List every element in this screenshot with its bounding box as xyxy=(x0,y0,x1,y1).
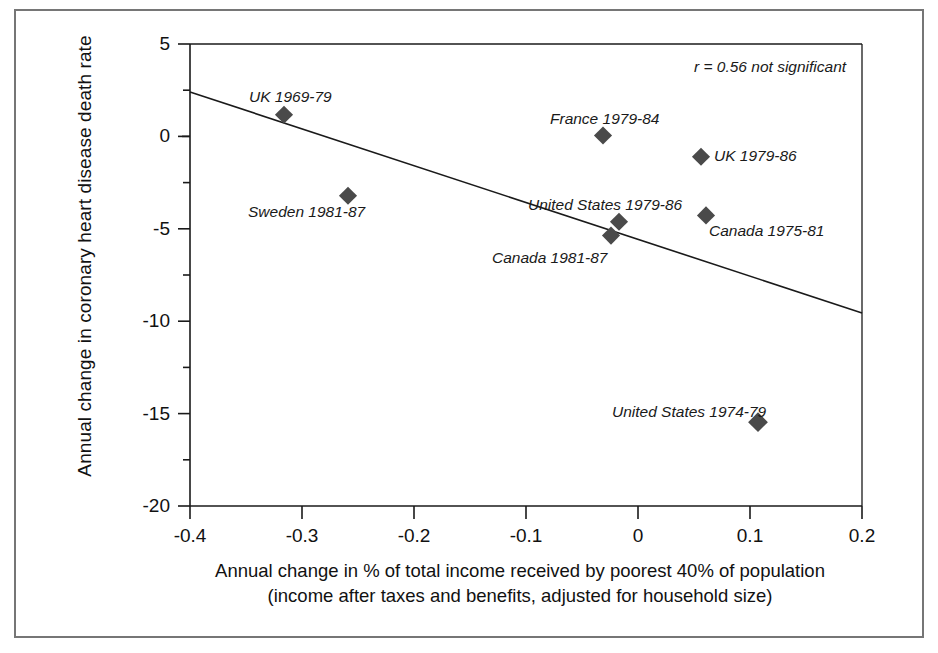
marker-canada-1981-87 xyxy=(602,227,620,245)
point-label-united-states-1979-86: United States 1979-86 xyxy=(528,196,682,214)
point-label-canada-1981-87: Canada 1981-87 xyxy=(492,249,608,267)
x-tick-label--0.2: -0.2 xyxy=(398,525,431,547)
point-label-france-1979-84: France 1979-84 xyxy=(550,110,659,128)
x-axis-title-line2: (income after taxes and benefits, adjust… xyxy=(150,583,890,608)
point-label-sweden-1981-87: Sweden 1981-87 xyxy=(248,203,365,221)
x-tick-label-0: 0 xyxy=(633,525,644,547)
y-tick-label-5: 5 xyxy=(128,33,170,55)
marker-uk-1979-86 xyxy=(692,148,710,166)
figure-container: Annual change in coronary heart disease … xyxy=(0,0,938,653)
point-label-united-states-1974-79: United States 1974-79 xyxy=(612,403,766,421)
x-tick-label--0.3: -0.3 xyxy=(286,525,319,547)
x-tick-label--0.1: -0.1 xyxy=(510,525,543,547)
x-axis-title: Annual change in % of total income recei… xyxy=(150,558,890,608)
x-axis-ticks xyxy=(190,506,862,519)
point-label-uk-1979-86: UK 1979-86 xyxy=(714,147,797,165)
y-axis-title: Annual change in coronary heart disease … xyxy=(74,21,96,491)
correlation-annotation: r = 0.56 not significant xyxy=(694,58,846,76)
x-tick-label--0.4: -0.4 xyxy=(174,525,207,547)
y-tick-label--15: -15 xyxy=(120,403,170,425)
point-label-canada-1975-81: Canada 1975-81 xyxy=(709,222,825,240)
y-tick-label--5: -5 xyxy=(128,218,170,240)
y-tick-label-0: 0 xyxy=(128,125,170,147)
x-tick-label-0.2: 0.2 xyxy=(849,525,875,547)
y-tick-label--10: -10 xyxy=(120,310,170,332)
point-label-uk-1969-79: UK 1969-79 xyxy=(249,88,332,106)
y-axis-ticks xyxy=(178,44,190,506)
marker-france-1979-84 xyxy=(594,126,612,144)
data-markers xyxy=(275,106,768,432)
y-tick-label--20: -20 xyxy=(120,495,170,517)
marker-united-states-1979-86 xyxy=(610,213,628,231)
x-tick-label-0.1: 0.1 xyxy=(737,525,763,547)
x-axis-title-line1: Annual change in % of total income recei… xyxy=(150,558,890,583)
